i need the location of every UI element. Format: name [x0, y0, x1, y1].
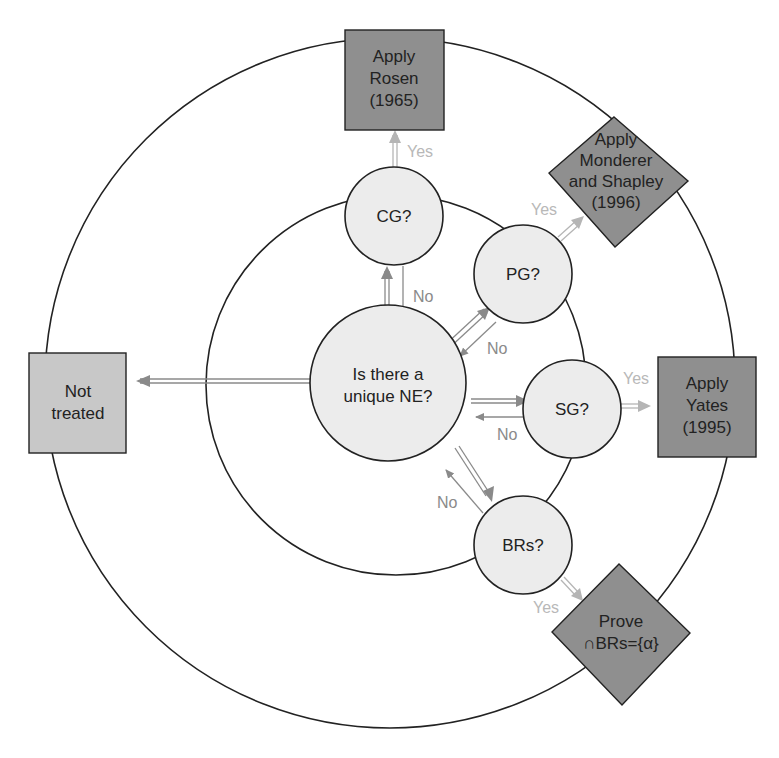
decision-node-brs[interactable]: BRs? — [474, 496, 572, 594]
monderer-line1: Apply — [595, 130, 638, 149]
label-sg-no: No — [497, 426, 518, 443]
monderer-line4: (1996) — [591, 193, 640, 212]
not-treated-line1: Not — [65, 382, 92, 401]
flow-diagram: Is there a unique NE? CG? PG? SG? BRs? A… — [0, 0, 779, 758]
label-pg-no: No — [487, 340, 508, 357]
label-cg-yes: Yes — [407, 143, 433, 160]
monderer-line2: Monderer — [580, 151, 653, 170]
center-node-line1: Is there a — [353, 365, 424, 384]
decision-node-cg[interactable]: CG? — [345, 167, 443, 265]
yates-line2: Yates — [686, 396, 728, 415]
label-pg-yes: Yes — [531, 201, 557, 218]
arrow-brs-yes — [561, 577, 583, 601]
yates-line3: (1995) — [682, 418, 731, 437]
arrow-to-sg — [471, 395, 529, 407]
sg-label: SG? — [555, 400, 589, 419]
outcome-apply-yates[interactable]: Apply Yates (1995) — [658, 357, 756, 457]
label-brs-no: No — [437, 494, 458, 511]
cg-label: CG? — [377, 207, 412, 226]
arrow-pg-yes — [558, 216, 584, 241]
rosen-line1: Apply — [373, 47, 416, 66]
brs-label: BRs? — [502, 536, 544, 555]
arrow-cg-yes — [389, 130, 401, 172]
label-sg-yes: Yes — [623, 370, 649, 387]
arrow-to-brs — [455, 446, 494, 502]
center-node-line2: unique NE? — [344, 387, 433, 406]
label-cg-no: No — [413, 288, 434, 305]
decision-node-sg[interactable]: SG? — [523, 360, 621, 458]
outcome-apply-rosen[interactable]: Apply Rosen (1965) — [345, 30, 444, 130]
outcome-not-treated[interactable]: Not treated — [29, 353, 126, 453]
outcome-apply-monderer-shapley[interactable]: Apply Monderer and Shapley (1996) — [549, 117, 688, 247]
decision-node-pg[interactable]: PG? — [474, 225, 572, 323]
rosen-line2: Rosen — [369, 69, 418, 88]
not-treated-line2: treated — [52, 404, 105, 423]
arrow-to-not-treated — [136, 375, 315, 387]
prove-line2: ∩BRs={α} — [583, 634, 659, 653]
monderer-line3: and Shapley — [569, 172, 664, 191]
label-brs-yes: Yes — [533, 599, 559, 616]
prove-line1: Prove — [599, 612, 643, 631]
center-node-unique-ne[interactable]: Is there a unique NE? — [310, 305, 466, 461]
yates-line1: Apply — [686, 374, 729, 393]
rosen-line3: (1965) — [369, 91, 418, 110]
pg-label: PG? — [506, 265, 540, 284]
